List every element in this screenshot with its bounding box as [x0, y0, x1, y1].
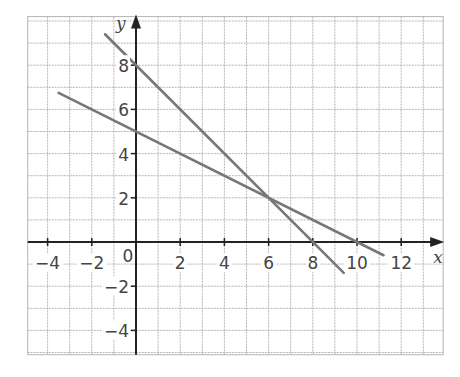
x-axis-label: x [433, 247, 443, 267]
coordinate-graph: −4−2246810120−4−22468 x y [0, 0, 460, 377]
x-tick-label: −2 [79, 253, 104, 273]
y-axis-label: y [115, 13, 126, 33]
y-tick-label: −4 [104, 321, 129, 341]
x-tick-label: 10 [346, 253, 368, 273]
y-tick-label: 2 [118, 189, 129, 209]
y-tick-label: 6 [118, 100, 129, 120]
y-tick-label: 8 [118, 56, 129, 76]
x-tick-label: 12 [390, 253, 412, 273]
x-tick-label: 2 [175, 253, 186, 273]
x-tick-label: 8 [307, 253, 318, 273]
y-tick-label: 4 [118, 145, 129, 165]
origin-label: 0 [123, 246, 134, 266]
x-tick-label: −4 [35, 253, 60, 273]
x-tick-label: 4 [219, 253, 230, 273]
grid-border [28, 17, 443, 355]
grid-lines [28, 17, 443, 355]
x-axis-arrow-icon [430, 237, 444, 247]
y-tick-label: −2 [104, 277, 129, 297]
x-tick-label: 6 [263, 253, 274, 273]
